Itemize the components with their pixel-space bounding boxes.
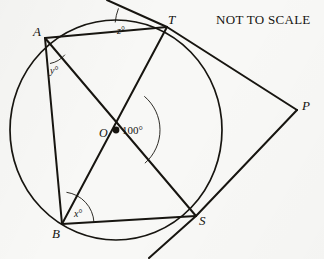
point-label-o: O <box>99 127 108 139</box>
tangent-tangent-at-S <box>149 110 297 258</box>
center-dot <box>113 127 120 134</box>
point-label-p: P <box>302 99 310 112</box>
chord-TB <box>62 27 167 224</box>
not-to-scale-caption: NOT TO SCALE <box>216 12 311 28</box>
chord-AS <box>45 38 196 216</box>
angle-arcs-group <box>50 8 160 222</box>
angle-label-center: 100° <box>122 125 143 136</box>
angle-label-y: y° <box>50 66 58 76</box>
angle-label-z: z° <box>117 26 125 36</box>
angle-arc-center <box>144 96 160 163</box>
point-label-t: T <box>168 13 175 26</box>
center-dot-group <box>113 127 120 134</box>
point-label-s: S <box>199 214 206 227</box>
geometry-figure <box>0 0 324 259</box>
point-label-a: A <box>33 25 41 38</box>
angle-label-x: x° <box>74 209 82 219</box>
chords-group <box>45 27 196 224</box>
point-label-b: B <box>52 227 60 240</box>
diagram-page: NOT TO SCALE ATSBOP z°y°100°x° <box>0 0 324 259</box>
chord-AT <box>45 27 167 38</box>
